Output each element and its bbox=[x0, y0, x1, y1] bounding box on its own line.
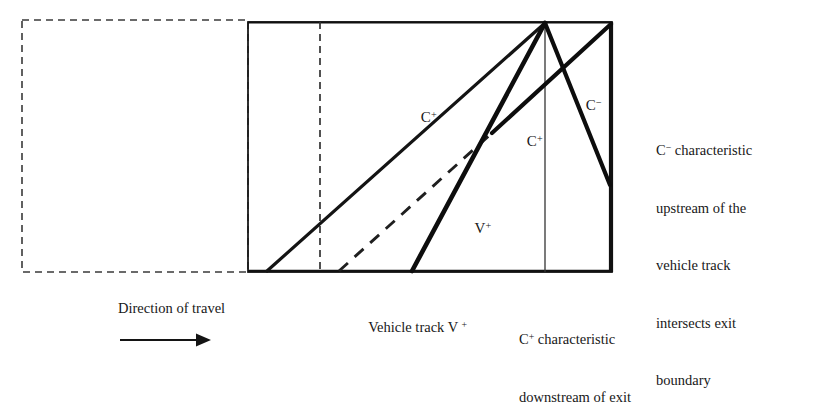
annotation-line-2: downstream of exit bbox=[519, 388, 689, 407]
annotation-line-2: upstream of the bbox=[656, 199, 808, 218]
label-c-plus-downstream: C+ bbox=[511, 112, 543, 171]
caption-vehicle-track: Vehicle track V + bbox=[354, 299, 467, 356]
annotation-line-1: C− characteristic bbox=[656, 141, 808, 160]
annotation-line-1: C+ characteristic bbox=[519, 330, 689, 349]
right-arrow-icon bbox=[120, 334, 211, 347]
annotation-c-plus-downstream: C+ characteristic downstream of exit bou… bbox=[519, 292, 689, 408]
diagram-stage: C+ C+ C− V+ C− characteristic upstream o… bbox=[0, 0, 816, 408]
upstream-dashed-region bbox=[22, 20, 248, 272]
annotation-line-3: vehicle track bbox=[656, 256, 808, 275]
label-v-plus: V+ bbox=[459, 199, 492, 258]
c-plus-upstream-line bbox=[267, 23, 545, 271]
caption-direction-of-travel: Direction of travel bbox=[118, 299, 225, 318]
label-c-minus: C− bbox=[570, 76, 602, 135]
label-c-plus-upstream: C+ bbox=[405, 88, 437, 147]
